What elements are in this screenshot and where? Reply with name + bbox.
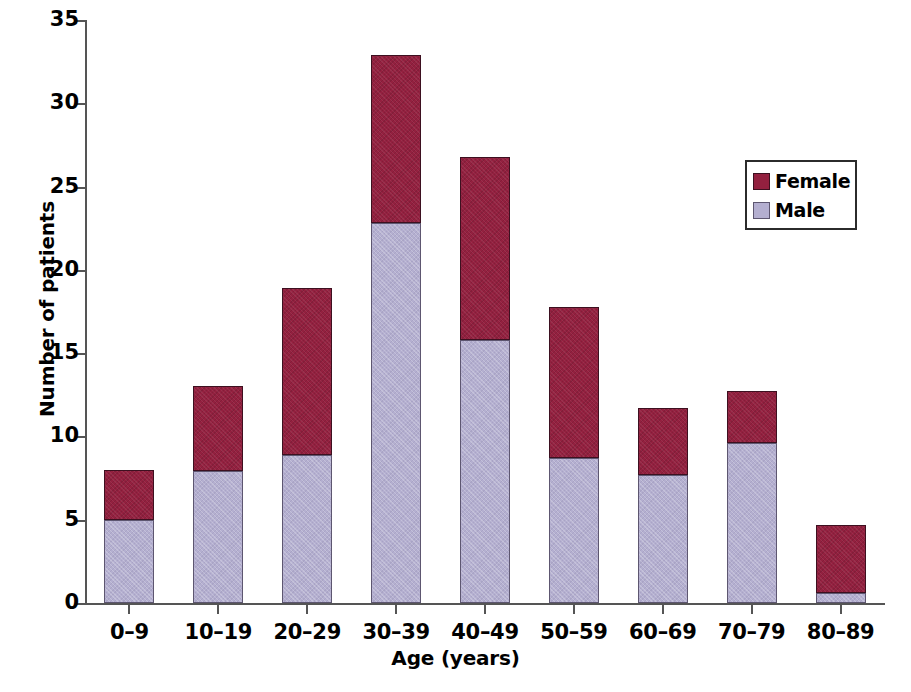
bar-20–29[interactable] bbox=[282, 288, 332, 603]
y-axis-title: Number of patients bbox=[35, 169, 59, 449]
y-tick-label: 20 bbox=[50, 258, 79, 280]
bar-segment-male[interactable] bbox=[816, 593, 866, 603]
bar-segment-male[interactable] bbox=[371, 223, 421, 603]
x-tick-label-0–9: 0–9 bbox=[110, 620, 149, 644]
y-tick-label: 5 bbox=[64, 508, 79, 530]
x-tick-mark bbox=[573, 605, 575, 614]
x-tick-mark bbox=[662, 605, 664, 614]
x-tick-label-10–19: 10–19 bbox=[185, 620, 252, 644]
bar-segment-male[interactable] bbox=[104, 520, 154, 603]
bar-10–19[interactable] bbox=[193, 386, 243, 603]
legend-label-female: Female bbox=[775, 172, 850, 191]
x-tick-mark bbox=[306, 605, 308, 614]
legend-swatch-female-icon bbox=[753, 173, 770, 190]
bar-segment-male[interactable] bbox=[549, 458, 599, 603]
x-tick-label-70–79: 70–79 bbox=[718, 620, 785, 644]
y-axis-line bbox=[85, 20, 87, 605]
x-tick-mark bbox=[395, 605, 397, 614]
y-tick-label: 0 bbox=[64, 591, 79, 613]
x-tick-mark bbox=[840, 605, 842, 614]
bar-segment-female[interactable] bbox=[104, 470, 154, 520]
bar-30–39[interactable] bbox=[371, 55, 421, 603]
x-tick-label-20–29: 20–29 bbox=[273, 620, 340, 644]
legend-item-female[interactable]: Female bbox=[753, 167, 855, 196]
y-tick-label: 15 bbox=[50, 341, 79, 363]
bar-segment-female[interactable] bbox=[549, 307, 599, 459]
x-tick-label-40–49: 40–49 bbox=[451, 620, 518, 644]
bar-70–79[interactable] bbox=[727, 391, 777, 603]
bar-0–9[interactable] bbox=[104, 470, 154, 603]
x-tick-mark bbox=[128, 605, 130, 614]
x-tick-label-30–39: 30–39 bbox=[362, 620, 429, 644]
y-tick-label: 30 bbox=[50, 91, 79, 113]
bar-80–89[interactable] bbox=[816, 525, 866, 603]
bar-segment-female[interactable] bbox=[638, 408, 688, 475]
bar-segment-male[interactable] bbox=[193, 471, 243, 603]
bar-segment-female[interactable] bbox=[460, 157, 510, 340]
bar-segment-female[interactable] bbox=[816, 525, 866, 593]
x-tick-label-50–59: 50–59 bbox=[540, 620, 607, 644]
bar-segment-male[interactable] bbox=[460, 340, 510, 603]
bar-60–69[interactable] bbox=[638, 408, 688, 603]
bar-segment-male[interactable] bbox=[638, 475, 688, 603]
bar-40–49[interactable] bbox=[460, 157, 510, 603]
bar-segment-male[interactable] bbox=[727, 443, 777, 603]
y-tick-label: 25 bbox=[50, 175, 79, 197]
x-tick-label-60–69: 60–69 bbox=[629, 620, 696, 644]
page-edge bbox=[0, 680, 911, 692]
bar-segment-female[interactable] bbox=[371, 55, 421, 223]
legend-swatch-male-icon bbox=[753, 202, 770, 219]
y-tick-label: 10 bbox=[50, 424, 79, 446]
bar-segment-female[interactable] bbox=[193, 386, 243, 471]
x-tick-label-80–89: 80–89 bbox=[807, 620, 874, 644]
bar-segment-male[interactable] bbox=[282, 455, 332, 603]
x-axis-title: Age (years) bbox=[0, 646, 911, 670]
bar-segment-female[interactable] bbox=[727, 391, 777, 443]
legend-label-male: Male bbox=[775, 201, 825, 220]
bar-50–59[interactable] bbox=[549, 307, 599, 603]
plot-area: 05101520253035 0–910–1920–2930–3940–4950… bbox=[85, 20, 885, 604]
bar-segment-female[interactable] bbox=[282, 288, 332, 455]
chart-legend: Female Male bbox=[745, 160, 857, 230]
x-tick-mark bbox=[751, 605, 753, 614]
x-tick-mark bbox=[484, 605, 486, 614]
y-tick-label: 35 bbox=[50, 8, 79, 30]
x-tick-mark bbox=[217, 605, 219, 614]
legend-item-male[interactable]: Male bbox=[753, 196, 855, 225]
stacked-bar-chart: Number of patients 05101520253035 0–910–… bbox=[0, 0, 911, 692]
